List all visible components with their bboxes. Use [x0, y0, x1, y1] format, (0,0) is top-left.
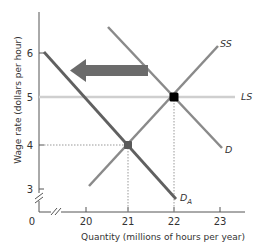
- da-label-main: D: [180, 192, 187, 203]
- ls-label: LS: [241, 91, 252, 102]
- ss-label: SS: [220, 38, 232, 49]
- y-tick-5: 5: [27, 92, 33, 103]
- x-tick-21: 21: [122, 216, 135, 227]
- demand-shift-arrow-icon: [70, 59, 148, 82]
- axes: [34, 12, 245, 217]
- y-tick-3: 3: [27, 184, 33, 195]
- da-label-sub: A: [186, 198, 192, 206]
- y-axis-title: Wage rate (dollars per hour): [13, 36, 23, 164]
- d-label: D: [225, 144, 232, 155]
- x-tick-20: 20: [80, 216, 93, 227]
- initial-equilibrium-point: [170, 93, 179, 102]
- x-tick-22: 22: [168, 216, 181, 227]
- new-equilibrium-point: [124, 141, 132, 149]
- x-tick-23: 23: [214, 216, 227, 227]
- labor-market-chart: 6 5 4 3 0 20 21 22 23 Quantity (millions…: [0, 0, 279, 247]
- origin-label: 0: [29, 216, 35, 227]
- da-label: DA: [180, 192, 192, 206]
- x-axis-title: Quantity (millions of hours per year): [81, 232, 245, 242]
- x-axis-break-icon: [51, 207, 61, 217]
- d-curve: [108, 27, 222, 148]
- y-tick-6: 6: [27, 48, 33, 59]
- y-tick-4: 4: [27, 140, 33, 151]
